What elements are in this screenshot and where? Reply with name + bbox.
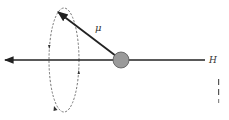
moment-vector-arrow: [58, 12, 116, 56]
orbit-arrow-icon: [48, 45, 51, 49]
field-label: H: [208, 55, 217, 65]
margin-marks: [218, 79, 219, 103]
moment-label: μ: [95, 22, 102, 33]
particle-sphere: [113, 52, 129, 68]
orbit-arrow-icon: [78, 70, 81, 74]
orbit-arrow-icon: [54, 106, 58, 111]
precession-diagram: μ H: [0, 0, 229, 120]
